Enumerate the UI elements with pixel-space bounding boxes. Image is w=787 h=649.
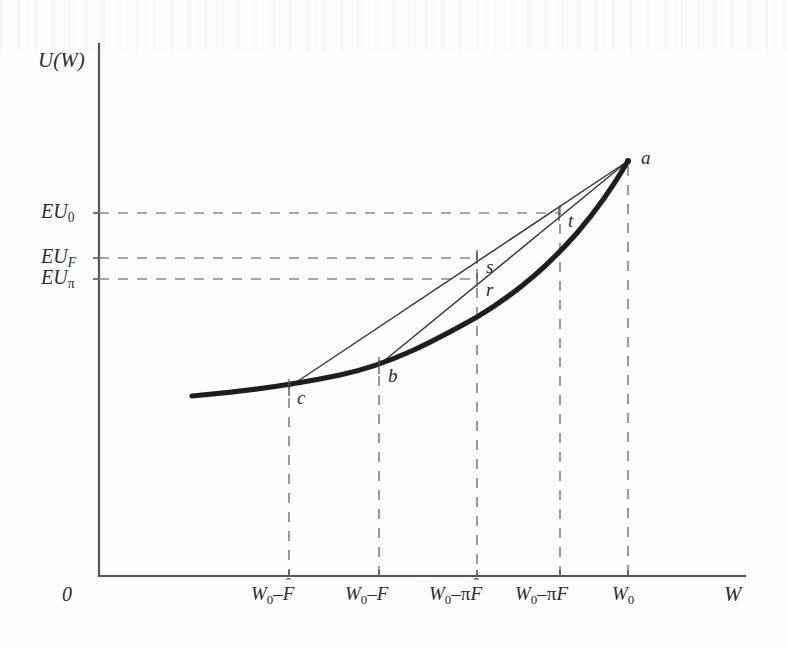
tick1-Fhat: F̂ — [283, 584, 295, 603]
x-tick-label-w0: W0 — [612, 584, 634, 603]
axes-group — [99, 44, 745, 576]
x-tick-label-w0-minus-pifhat: W0–πF̂ — [429, 584, 482, 603]
x-tick-label-w0-minus-pif: W0–πF — [515, 584, 568, 603]
point-label-a: a — [641, 148, 651, 167]
point-marker-a — [625, 158, 631, 164]
tick2-minus: – — [367, 583, 377, 604]
vertical-guides-group — [289, 166, 628, 576]
eupi-sub: π — [68, 276, 75, 291]
tick3-W: W — [429, 583, 445, 604]
tick1-W: W — [251, 583, 267, 604]
y-level-label-eu0: EU0 — [41, 201, 74, 221]
y-level-label-euf: EUF — [41, 246, 76, 266]
x-tick-label-w0-minus-f: W0–F — [345, 584, 388, 603]
point-label-t: t — [568, 211, 573, 230]
tick5-sub: 0 — [628, 592, 634, 607]
tick2-F: F — [377, 583, 389, 604]
eu0-base: EU — [41, 200, 68, 222]
point-label-r: r — [486, 280, 493, 299]
chord-b-to-a — [379, 161, 628, 365]
figure-canvas — [0, 0, 787, 649]
y-axis-title: U(W) — [38, 50, 85, 71]
eu0-sub: 0 — [68, 210, 75, 225]
figure-root: U(W) W 0 EU0 EUF EUπ W0–F̂ W0–F W0–πF̂ W… — [0, 0, 787, 649]
tick4-W: W — [515, 583, 531, 604]
tick4-F: F — [556, 583, 568, 604]
tick2-W: W — [345, 583, 361, 604]
chord-c-to-a — [289, 161, 628, 387]
tick3-pi: π — [461, 583, 471, 604]
x-axis-title: W — [724, 584, 742, 605]
point-label-c: c — [297, 388, 305, 407]
point-label-b: b — [388, 366, 398, 385]
point-label-s: s — [486, 257, 493, 276]
x-tick-label-w0-minus-fhat: W0–F̂ — [251, 584, 294, 603]
tick3-Fhat: F̂ — [470, 584, 482, 603]
y-level-label-eupi: EUπ — [41, 267, 75, 287]
tick1-minus: – — [273, 583, 283, 604]
tick4-pi: π — [547, 583, 557, 604]
tick3-minus: – — [451, 583, 461, 604]
tick5-W: W — [612, 583, 628, 604]
euf-base: EU — [41, 245, 68, 267]
chords-group — [289, 161, 628, 387]
eupi-base: EU — [41, 266, 68, 288]
tick4-minus: – — [537, 583, 547, 604]
origin-label: 0 — [62, 584, 72, 604]
